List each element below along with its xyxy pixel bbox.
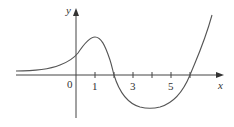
function-curve <box>16 15 212 108</box>
tick-label-1: 1 <box>92 81 98 92</box>
function-graph <box>0 0 234 127</box>
tick-label-3: 3 <box>130 81 136 92</box>
y-axis-label: y <box>66 5 71 16</box>
y-axis-arrow-icon <box>73 8 79 16</box>
x-axis-arrow-icon <box>216 72 224 78</box>
tick-label-5: 5 <box>168 81 174 92</box>
x-axis-label: x <box>218 80 223 91</box>
origin-label: 0 <box>67 79 73 90</box>
